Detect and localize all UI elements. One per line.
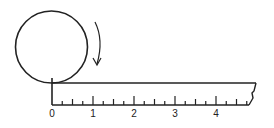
rolling-circle: [16, 11, 88, 83]
ruler-label-0: 0: [49, 108, 55, 119]
ruler-label-1: 1: [90, 108, 96, 119]
arrow-arc: [95, 22, 100, 64]
arrow-head: [93, 58, 101, 65]
circle: [16, 11, 88, 83]
ruler-label-3: 3: [172, 108, 178, 119]
ruler: [52, 78, 256, 105]
ruler-label-2: 2: [131, 108, 137, 119]
ruler-label-4: 4: [213, 108, 219, 119]
ruler-torn-edge: [249, 83, 256, 105]
circle-ruler-diagram: 01234: [0, 0, 274, 128]
ruler-labels: 01234: [49, 108, 219, 119]
clockwise-arrow-icon: [93, 22, 101, 65]
